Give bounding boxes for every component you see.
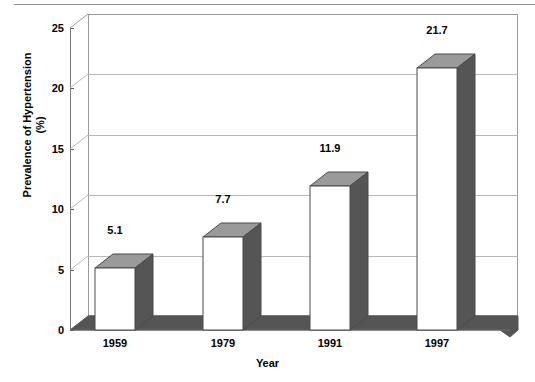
- x-tick-label-1979: 1979: [193, 337, 253, 349]
- depth-line-25: [70, 14, 88, 28]
- chart-figure: Prevalence of Hypertension (%) 25 20 15 …: [0, 0, 535, 382]
- depth-line-5: [70, 256, 88, 270]
- plot-area: 5.1 7.7 11.9 21.7 1959 1979 1991 1997 Ye…: [0, 0, 535, 382]
- bar-1959: [95, 254, 153, 330]
- bar-1997: [417, 54, 475, 330]
- bar-value-label-1991: 11.9: [300, 142, 360, 154]
- bar-front-face-1991: [310, 186, 350, 330]
- depth-line-20: [70, 74, 88, 88]
- depth-line-10: [70, 195, 88, 209]
- bar-value-label-1979: 7.7: [193, 193, 253, 205]
- bar-value-label-1997: 21.7: [407, 24, 467, 36]
- x-axis-title: Year: [0, 357, 535, 369]
- bar-front-face-1959: [95, 268, 135, 330]
- chart-geometry: [0, 0, 535, 382]
- bar-front-face-1997: [417, 68, 457, 330]
- bar-front-face-1979: [203, 237, 243, 330]
- depth-line-15: [70, 135, 88, 149]
- bar-side-face-1991: [350, 172, 368, 330]
- bar-side-face-1997: [457, 54, 475, 330]
- bar-side-face-1979: [243, 223, 261, 330]
- x-tick-label-1991: 1991: [300, 337, 360, 349]
- bar-value-label-1959: 5.1: [85, 224, 145, 236]
- bar-1979: [203, 223, 261, 330]
- bar-side-face-1959: [135, 254, 153, 330]
- x-tick-label-1959: 1959: [85, 337, 145, 349]
- bar-1991: [310, 172, 368, 330]
- x-tick-label-1997: 1997: [407, 337, 467, 349]
